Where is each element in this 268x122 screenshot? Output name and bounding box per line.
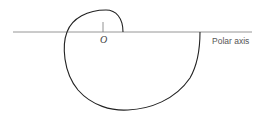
spiral-curve <box>64 10 200 110</box>
polar-axis-label: Polar axis <box>212 36 249 46</box>
origin-label: O <box>100 34 107 45</box>
spiral-diagram: O Polar axis <box>0 0 268 122</box>
